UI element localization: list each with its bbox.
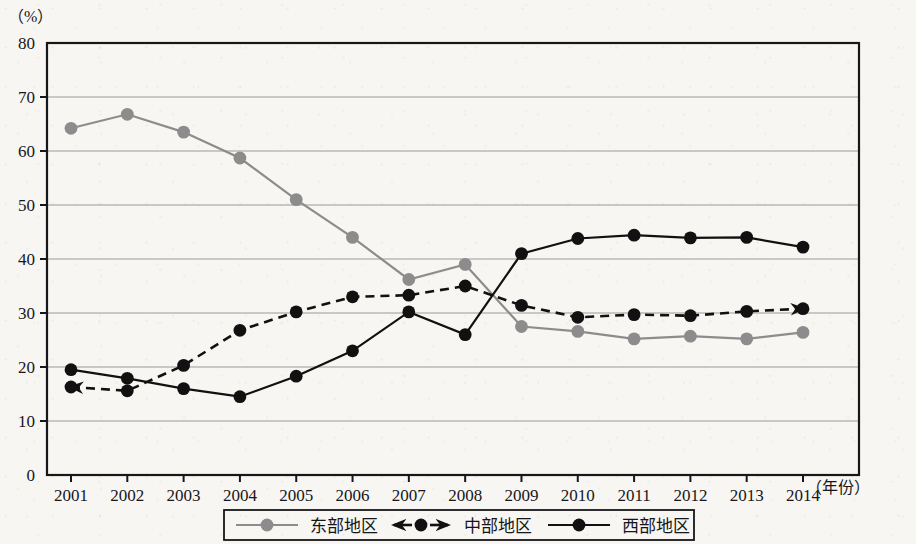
gridlines [47, 97, 859, 421]
data-point [740, 231, 753, 244]
x-axis-tick-label: 2013 [730, 486, 764, 505]
data-point [346, 231, 359, 244]
y-axis-tick-label: 30 [18, 304, 35, 323]
legend-label: 西部地区 [622, 517, 690, 536]
data-point [177, 382, 190, 395]
data-point [65, 363, 78, 376]
data-point [234, 390, 247, 403]
data-point [121, 108, 134, 121]
data-point [65, 381, 78, 394]
chart-legend: 东部地区中部地区西部地区 [224, 510, 694, 540]
y-axis-tick-label: 0 [27, 466, 36, 485]
data-point [515, 299, 528, 312]
y-axis-tick-label: 60 [18, 142, 35, 161]
x-axis-tick-label: 2002 [110, 486, 144, 505]
legend-marker [261, 519, 274, 532]
legend-marker [415, 519, 428, 532]
series-line [71, 114, 803, 339]
data-point [121, 372, 134, 385]
line-chart: 80706050403020100 2001200220032004200520… [0, 0, 916, 544]
data-point [515, 320, 528, 333]
x-axis-tick-label: 2010 [561, 486, 595, 505]
data-point [290, 370, 303, 383]
data-point [684, 232, 697, 245]
data-point [459, 280, 472, 293]
data-point [571, 325, 584, 338]
y-axis-tick-label: 10 [18, 412, 35, 431]
data-point [459, 258, 472, 271]
legend-label: 东部地区 [310, 517, 378, 536]
series-2 [65, 280, 810, 398]
x-axis-tick-label: 2006 [336, 486, 370, 505]
legend-item-1: 东部地区 [236, 517, 378, 536]
data-point [234, 152, 247, 165]
data-point [346, 290, 359, 303]
legend-label: 中部地区 [464, 517, 532, 536]
data-point [740, 333, 753, 346]
x-axis-unit-label: （年份） [806, 479, 870, 496]
x-axis-tick-label: 2005 [279, 486, 313, 505]
data-point [459, 328, 472, 341]
y-axis-unit-label: （%） [8, 8, 53, 25]
series-1 [65, 108, 810, 345]
data-point [402, 273, 415, 286]
data-point [797, 241, 810, 254]
data-point [515, 247, 528, 260]
data-point [121, 384, 134, 397]
legend-marker [573, 519, 586, 532]
data-point [571, 232, 584, 245]
x-axis-tick-label: 2004 [223, 486, 258, 505]
legend-items: 东部地区中部地区西部地区 [236, 517, 690, 536]
chart-page: 80706050403020100 2001200220032004200520… [0, 0, 916, 544]
y-axis-tick-label: 20 [18, 358, 35, 377]
data-point [628, 333, 641, 346]
data-point [177, 126, 190, 139]
data-point [628, 308, 641, 321]
legend-item-2: 中部地区 [394, 517, 532, 536]
data-point [290, 193, 303, 206]
x-axis-tick-label: 2012 [673, 486, 707, 505]
data-point [65, 122, 78, 135]
data-point [684, 330, 697, 343]
legend-item-3: 西部地区 [548, 517, 690, 536]
data-series-layer [65, 108, 810, 403]
data-point [234, 324, 247, 337]
data-point [628, 229, 641, 242]
x-axis-tick-label: 2008 [448, 486, 482, 505]
data-point [290, 306, 303, 319]
y-axis-tick-labels: 80706050403020100 [18, 34, 35, 485]
x-axis-tick-label: 2011 [617, 486, 650, 505]
data-point [571, 311, 584, 324]
x-axis-tick-label: 2003 [167, 486, 201, 505]
data-point [402, 306, 415, 319]
data-point [797, 302, 810, 315]
x-axis-tick-label: 2007 [392, 486, 427, 505]
data-point [177, 359, 190, 372]
data-point [402, 289, 415, 302]
data-point [797, 326, 810, 339]
y-axis-tick-label: 50 [18, 196, 35, 215]
data-point [684, 309, 697, 322]
x-axis-tick-label: 2001 [54, 486, 88, 505]
y-axis-tick-label: 40 [18, 250, 35, 269]
y-axis-tick-label: 80 [18, 34, 35, 53]
y-axis-tick-label: 70 [18, 88, 35, 107]
data-point [346, 344, 359, 357]
x-axis-tick-labels: 2001200220032004200520062007200820092010… [54, 486, 821, 505]
x-axis-tick-label: 2009 [504, 486, 538, 505]
data-point [740, 305, 753, 318]
